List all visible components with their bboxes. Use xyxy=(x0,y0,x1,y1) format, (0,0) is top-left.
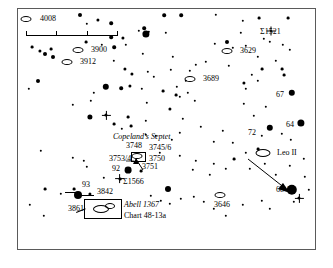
ngc-label-3861: 3861 xyxy=(68,205,84,213)
scale-tick xyxy=(117,31,118,36)
star-point xyxy=(192,169,194,171)
star-point xyxy=(179,155,181,157)
star-point xyxy=(119,86,123,90)
star-point xyxy=(162,90,165,93)
star-point xyxy=(287,17,290,20)
star-point xyxy=(121,36,124,39)
star-point xyxy=(90,100,92,102)
star-label-s1566: Σ1566 xyxy=(123,178,144,186)
star-label-64: 64 xyxy=(286,121,294,129)
star-point xyxy=(215,14,217,16)
galaxy-label-3689: 3689 xyxy=(203,75,219,83)
copelands-septet-title: Copeland's Septet xyxy=(113,133,170,141)
star-point xyxy=(240,32,242,34)
star-point xyxy=(293,201,295,203)
star-point xyxy=(232,142,234,144)
star-point xyxy=(225,40,229,44)
star-point xyxy=(153,76,155,78)
star-point xyxy=(245,152,247,154)
star-point xyxy=(265,106,267,108)
star-point xyxy=(242,81,245,84)
star-point xyxy=(297,196,300,199)
star-point xyxy=(29,204,31,206)
star-point xyxy=(72,104,74,106)
star-point xyxy=(205,61,207,63)
star-point xyxy=(104,113,107,116)
star-point xyxy=(269,208,271,210)
scale-tick xyxy=(26,31,27,36)
star-point xyxy=(142,30,149,37)
septet-member-label-3748: 3748 xyxy=(126,142,142,150)
star-point xyxy=(172,56,174,58)
star-point xyxy=(150,195,152,197)
star-point xyxy=(233,158,236,161)
star-point xyxy=(261,200,263,202)
star-point xyxy=(168,107,171,110)
star-point xyxy=(74,191,82,199)
star-point xyxy=(112,45,116,49)
star-point xyxy=(228,65,230,67)
star-point xyxy=(282,44,284,46)
star-point xyxy=(127,116,130,119)
galaxy-symbol-3912 xyxy=(62,59,73,65)
galaxy-symbol-3646 xyxy=(215,192,226,198)
star-point xyxy=(303,158,305,160)
scale-bar-axis xyxy=(26,35,118,36)
star-point xyxy=(51,55,55,59)
star-point xyxy=(125,167,132,174)
star-point xyxy=(103,84,109,90)
star-label-92: 92 xyxy=(112,165,120,173)
star-label-72: 72 xyxy=(248,129,256,137)
star-point xyxy=(113,123,116,126)
star-point xyxy=(43,215,45,217)
star-point xyxy=(93,92,95,94)
star-point xyxy=(87,114,92,119)
star-point xyxy=(85,41,88,44)
star-point xyxy=(179,13,183,17)
star-point xyxy=(251,74,253,76)
star-point xyxy=(242,204,244,206)
star-point xyxy=(36,79,40,83)
star-point xyxy=(263,38,265,40)
star-point xyxy=(130,72,133,75)
star-point xyxy=(281,133,283,135)
star-point xyxy=(123,67,126,70)
star-point xyxy=(304,176,306,178)
star-point xyxy=(182,118,184,120)
star-point xyxy=(232,47,234,49)
star-point xyxy=(203,201,205,203)
star-point xyxy=(147,71,149,73)
star-point xyxy=(113,60,115,62)
star-point xyxy=(170,69,172,71)
galaxy-symbol-leoii xyxy=(256,149,271,157)
star-point xyxy=(169,203,171,205)
star-point xyxy=(171,139,173,141)
star-point xyxy=(109,21,113,25)
star-point xyxy=(222,130,224,132)
star-chart: 400839003912362936893646Leo IIΣ1521Σ1566… xyxy=(0,0,333,268)
scale-tick xyxy=(56,31,57,36)
star-point xyxy=(73,188,76,191)
star-point xyxy=(179,96,181,98)
star-point xyxy=(225,168,227,170)
ngc-label-3842: 3842 xyxy=(97,188,113,196)
galaxy-symbol-4008 xyxy=(21,16,32,22)
star-point xyxy=(38,49,41,52)
septet-member-label-3753-4: 3753/4 xyxy=(109,155,131,163)
star-point xyxy=(243,103,245,105)
star-point xyxy=(189,70,191,72)
legend-connector-3842 xyxy=(80,195,94,196)
star-point xyxy=(225,215,227,217)
star-point xyxy=(121,128,123,130)
star-field-frame: 400839003912362936893646Leo IIΣ1521Σ1566… xyxy=(17,8,316,250)
star-point xyxy=(160,200,162,202)
star-point xyxy=(297,119,304,126)
star-point xyxy=(245,88,247,90)
star-point xyxy=(176,86,178,88)
star-point xyxy=(194,100,196,102)
scale-bar xyxy=(26,29,118,41)
star-point xyxy=(213,141,215,143)
star-point xyxy=(257,80,259,82)
legend-galaxy-symbol-small xyxy=(105,203,115,209)
catalog-name-label: Abell 1367 xyxy=(124,201,159,209)
